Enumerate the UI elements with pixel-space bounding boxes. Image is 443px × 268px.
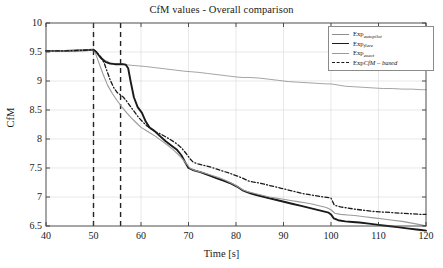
x-tick-label: 90 (264, 230, 304, 241)
x-tick-label: 60 (121, 230, 161, 241)
legend-item-autopilot: Expautopilot (331, 30, 431, 39)
legend-item-cfm-based: ExpCfM – based (331, 58, 431, 67)
y-tick-label: 8 (8, 133, 42, 144)
x-tick-label: 100 (311, 230, 351, 241)
y-tick-label: 9.5 (8, 46, 42, 57)
y-tick-label: 7.5 (8, 162, 42, 173)
legend-item-flare: Expflare (331, 39, 431, 48)
y-tick-label: 10 (8, 17, 42, 28)
x-tick-label: 70 (169, 230, 209, 241)
legend-line-sample-autopilot (331, 30, 350, 39)
x-tick-label: 110 (359, 230, 399, 241)
chart-figure: CfM values - Overall comparison CfM Time… (0, 0, 443, 268)
legend-line-sample-cfm-based (331, 58, 350, 67)
legend-label-cfm-based: ExpCfM – based (353, 58, 397, 67)
legend-label-flare: Expflare (353, 39, 373, 49)
x-tick-label: 50 (74, 230, 114, 241)
y-tick-label: 8.5 (8, 104, 42, 115)
y-tick-label: 6.5 (8, 220, 42, 231)
x-axis-label: Time [s] (0, 248, 443, 259)
y-tick-label: 7 (8, 191, 42, 202)
x-tick-label: 40 (26, 230, 66, 241)
legend-item-exact: Expexact (331, 49, 431, 58)
legend-line-sample-exact (331, 49, 350, 58)
legend-line-sample-flare (331, 39, 350, 48)
x-tick-label: 80 (216, 230, 256, 241)
legend: Expautopilot Expflare Expexact ExpCfM – … (328, 26, 434, 71)
y-tick-label: 9 (8, 75, 42, 86)
legend-label-exact: Expexact (353, 48, 374, 58)
x-tick-label: 120 (406, 230, 443, 241)
legend-label-autopilot: Expautopilot (353, 29, 382, 39)
